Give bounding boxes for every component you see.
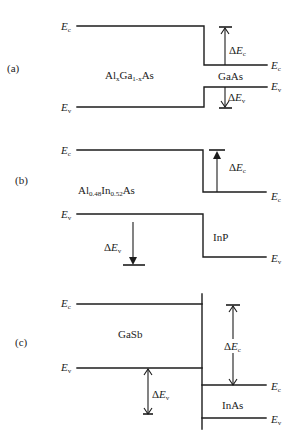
ec-label-right: Ec	[270, 59, 281, 73]
panel-label-b: (b)	[15, 174, 28, 187]
ec-label-left: Ec	[60, 144, 71, 158]
delta-ev-label: ΔEv	[104, 241, 122, 255]
e-sub: c	[238, 346, 241, 354]
delta-symbol: Δ	[229, 44, 236, 56]
ev-sub: v	[278, 419, 282, 427]
panel-b: (b) Ec Ev Al0.48In0.52As InP Ec Ev ΔEc Δ…	[15, 144, 282, 266]
material-subscript: 1-x	[132, 75, 142, 83]
band-alignment-diagram: (a) Ec Ev AlxGa1-xAs GaAs Ec Ev ΔEc ΔEv …	[0, 0, 299, 441]
material-part: As	[123, 184, 135, 196]
ev-sub: v	[68, 367, 72, 375]
e-sub: v	[166, 394, 170, 402]
left-material-label: Al0.48In0.52As	[78, 184, 135, 198]
panel-label-c: (c)	[15, 336, 28, 349]
ec-label-left: Ec	[60, 297, 71, 311]
ec-sub: c	[68, 303, 71, 311]
delta-symbol: Δ	[152, 388, 159, 400]
panel-label-text: (b)	[15, 174, 28, 187]
ev-label-right: Ev	[270, 252, 282, 266]
panel-a: (a) Ec Ev AlxGa1-xAs GaAs Ec Ev ΔEc ΔEv	[7, 20, 282, 115]
ec-sub: c	[278, 196, 281, 204]
delta-ec-label: ΔEc	[229, 44, 246, 58]
ev-label-left: Ev	[60, 361, 72, 375]
material-text: GaSb	[118, 328, 143, 340]
delta-symbol: Δ	[228, 91, 235, 103]
material-subscript: 0.52	[110, 190, 123, 198]
ev-label-right: Ev	[270, 80, 282, 94]
ec-label-right: Ec	[270, 190, 281, 204]
panel-label-text: (c)	[15, 336, 28, 349]
right-material-label: InAs	[222, 399, 243, 411]
ev-sub: v	[278, 86, 282, 94]
panel-c: (c) Ec Ev GaSb InAs Ec Ev ΔEc ΔEv	[15, 294, 282, 429]
material-subscript: 0.48	[89, 190, 102, 198]
ec-sub: c	[278, 386, 281, 394]
e-sub: v	[242, 97, 246, 105]
left-material-label: GaSb	[118, 328, 143, 340]
delta-ev-label: ΔEv	[228, 91, 246, 105]
arrowhead-down-icon	[129, 257, 137, 265]
material-part: As	[142, 69, 154, 81]
left-material-label: AlxGa1-xAs	[105, 69, 154, 83]
ev-label-left: Ev	[60, 208, 72, 222]
ev-label-right: Ev	[270, 413, 282, 427]
panel-label-text: (a)	[7, 62, 20, 75]
delta-symbol: Δ	[224, 340, 231, 352]
ev-sub: v	[68, 107, 72, 115]
material-part: Al	[78, 184, 89, 196]
ec-label-right: Ec	[270, 380, 281, 394]
material-text: InAs	[222, 399, 243, 411]
ev-label-left: Ev	[60, 101, 72, 115]
ec-sub: c	[278, 65, 281, 73]
panel-label-a: (a)	[7, 62, 20, 75]
delta-ev-arrow	[123, 222, 145, 265]
right-material-label: InP	[213, 231, 228, 243]
ec-label-left: Ec	[60, 20, 71, 34]
e-sub: v	[118, 247, 122, 255]
right-material-label: GaAs	[218, 70, 243, 82]
delta-ec-label: ΔEc	[229, 161, 246, 175]
delta-symbol: Δ	[104, 241, 111, 253]
delta-symbol: Δ	[229, 161, 236, 173]
ec-sub: c	[68, 150, 71, 158]
material-text: InP	[213, 231, 228, 243]
delta-ec-arrow	[209, 150, 225, 192]
ec-sub: c	[68, 26, 71, 34]
arrowhead-up-icon	[213, 151, 221, 159]
ev-sub: v	[278, 258, 282, 266]
e-sub: c	[243, 167, 246, 175]
e-sub: c	[243, 50, 246, 58]
material-part: Al	[105, 69, 116, 81]
material-text: GaAs	[218, 70, 243, 82]
delta-ev-label: ΔEv	[152, 388, 170, 402]
material-part: Ga	[120, 69, 133, 81]
ev-sub: v	[68, 214, 72, 222]
